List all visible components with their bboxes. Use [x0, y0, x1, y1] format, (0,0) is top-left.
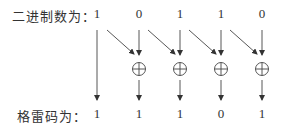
gray-code-label: 格雷码为： [17, 106, 87, 125]
arrow-diag-2-3 [148, 30, 175, 54]
arrow-diag-4-5 [230, 30, 257, 54]
xor-icon-2 [133, 63, 146, 76]
arrow-diag-1-2 [107, 30, 134, 54]
xor-icon-3 [174, 63, 187, 76]
gray-digit-5: 1 [256, 106, 268, 122]
gray-digit-4: 0 [215, 106, 227, 122]
xor-icon-4 [215, 63, 228, 76]
gray-digit-2: 1 [133, 106, 145, 122]
gray-digit-1: 1 [91, 106, 103, 122]
xor-icon-5 [256, 63, 269, 76]
arrow-diag-3-4 [189, 30, 216, 54]
gray-digit-3: 1 [174, 106, 186, 122]
